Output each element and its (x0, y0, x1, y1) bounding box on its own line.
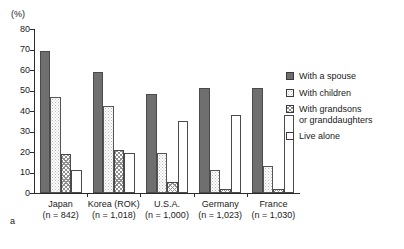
bar-korea-rok-live-alone (124, 153, 135, 193)
chart-legend: With a spouseWith childrenWith grandsons… (286, 71, 404, 148)
legend-label: With a spouse (299, 71, 356, 82)
bar-japan-with-grandsons (61, 154, 72, 193)
bar-korea-rok-with-a-spouse (93, 72, 104, 193)
y-tick-label: 20 (0, 148, 30, 157)
y-tick-label: 70 (0, 45, 30, 54)
legend-label: With grandsons or granddaughters (299, 104, 373, 125)
bar-germany-with-children (210, 170, 221, 193)
x-axis-category-name: France (235, 199, 312, 210)
y-tick-label-wrap: 70 (0, 45, 30, 54)
bar-japan-live-alone (71, 170, 82, 193)
y-tick-label: 40 (0, 107, 30, 116)
y-tick-label-wrap: 60 (0, 66, 30, 75)
x-tick (140, 193, 141, 197)
y-tick-label: 10 (0, 168, 30, 177)
bar-france-with-children (263, 166, 274, 193)
legend-label: With children (299, 88, 351, 99)
bar-japan-with-children (50, 97, 61, 193)
y-tick-label-wrap: 10 (0, 168, 30, 177)
y-tick (30, 152, 34, 153)
legend-label: Live alone (299, 131, 340, 142)
bar-japan-with-a-spouse (40, 51, 51, 193)
bar-u-s-a-live-alone (178, 121, 189, 193)
y-tick-label-wrap: 30 (0, 127, 30, 136)
bar-france-with-grandsons (273, 189, 284, 193)
y-tick (30, 173, 34, 174)
legend-item: With children (286, 88, 404, 99)
y-axis-line (34, 29, 35, 194)
y-tick (30, 193, 34, 194)
y-tick-label: 60 (0, 66, 30, 75)
bar-korea-rok-with-children (103, 106, 114, 193)
panel-letter: a (10, 216, 15, 226)
y-tick-label-wrap: 0 (0, 189, 30, 198)
y-tick-label: 50 (0, 86, 30, 95)
legend-swatch-solid (286, 72, 294, 80)
legend-item: With a spouse (286, 71, 404, 82)
bar-germany-live-alone (231, 115, 242, 193)
bar-korea-rok-with-grandsons (114, 150, 125, 193)
x-axis-sample-size: (n = 1,030) (235, 210, 312, 221)
plot-area: 01020304050607080 (34, 29, 300, 194)
x-tick (194, 193, 195, 197)
bar-germany-with-grandsons (220, 189, 231, 193)
bar-germany-with-a-spouse (199, 88, 210, 193)
y-tick (30, 50, 34, 51)
bar-france-with-a-spouse (252, 88, 263, 193)
x-tick (87, 193, 88, 197)
figure-panel-a: (%) 01020304050607080 a With a spouseWit… (0, 0, 404, 249)
y-tick-label: 0 (0, 189, 30, 198)
legend-swatch-dots (286, 89, 294, 97)
legend-swatch-open (286, 132, 294, 140)
y-tick-label-wrap: 80 (0, 25, 30, 34)
bar-u-s-a-with-children (157, 153, 168, 193)
y-tick (30, 132, 34, 133)
y-tick (30, 70, 34, 71)
y-tick (30, 91, 34, 92)
legend-item: Live alone (286, 131, 404, 142)
y-tick-label-wrap: 50 (0, 86, 30, 95)
x-axis-line (34, 193, 300, 194)
x-axis-group-label: France(n = 1,030) (235, 199, 312, 221)
y-tick-label-wrap: 40 (0, 107, 30, 116)
legend-swatch-crosshatch (286, 105, 294, 113)
bar-u-s-a-with-grandsons (167, 182, 178, 193)
y-tick (30, 111, 34, 112)
y-axis-unit-label: (%) (11, 9, 25, 19)
y-tick-label: 30 (0, 127, 30, 136)
y-tick-label-wrap: 20 (0, 148, 30, 157)
legend-item: With grandsons or granddaughters (286, 104, 404, 125)
x-tick (247, 193, 248, 197)
bar-u-s-a-with-a-spouse (146, 94, 157, 193)
y-tick (30, 29, 34, 30)
y-tick-label: 80 (0, 25, 30, 34)
